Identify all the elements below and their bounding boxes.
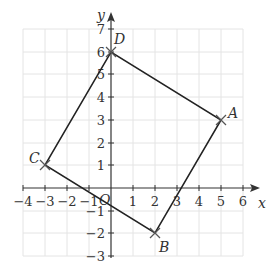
x-tick-label: −4 bbox=[13, 194, 32, 209]
x-axis-label: x bbox=[258, 195, 266, 211]
x-tick-label: 4 bbox=[195, 194, 203, 209]
x-tick-label: 2 bbox=[151, 194, 159, 209]
y-tick-label: 3 bbox=[97, 113, 105, 128]
y-tick-label: 1 bbox=[97, 158, 105, 173]
point-d-label: D bbox=[113, 31, 125, 47]
grid bbox=[23, 29, 243, 256]
x-tick-label: 6 bbox=[239, 194, 247, 209]
point-c-label: C bbox=[29, 150, 40, 166]
x-tick-label: 1 bbox=[129, 194, 137, 209]
y-tick-label: 6 bbox=[97, 45, 105, 60]
x-tick-labels: −4 −3 −2 −1 1 2 3 4 5 6 bbox=[13, 194, 247, 209]
y-tick-label: 7 bbox=[97, 22, 105, 37]
y-tick-label: 4 bbox=[97, 90, 105, 105]
y-tick-label: 2 bbox=[97, 136, 105, 151]
x-tick-label: −3 bbox=[35, 194, 54, 209]
y-axis-label: y bbox=[96, 7, 106, 23]
coordinate-plot: −4 −3 −2 −1 1 2 3 4 5 6 −3 −2 −1 1 2 3 4… bbox=[0, 0, 278, 280]
point-a-label: A bbox=[226, 105, 238, 121]
y-tick-label: −2 bbox=[86, 226, 105, 241]
point-b-label: B bbox=[158, 239, 169, 255]
x-tick-label: −2 bbox=[57, 194, 76, 209]
x-tick-label: 5 bbox=[217, 194, 225, 209]
y-tick-label: −3 bbox=[86, 249, 105, 264]
